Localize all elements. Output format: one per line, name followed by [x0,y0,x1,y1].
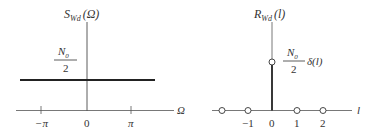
right-title-sub: Wd [261,14,273,23]
sample-circle-minus1 [245,108,251,114]
impulse-head-circle [269,59,275,65]
tick-label-r-zero: 0 [269,117,275,129]
tick-label-zero: 0 [84,117,90,129]
right-title-arg: (l) [274,7,285,21]
svg-text:SWd(Ω): SWd(Ω) [64,7,99,23]
diagram-canvas: SWd(Ω) N0 2 Ω −π 0 π RWd(l) [0,0,378,134]
right-impulse-numerator-sub: 0 [294,53,298,61]
right-impulse-denominator: 2 [291,63,297,75]
tick-label-minus1: −1 [242,117,254,129]
tick-label-1: 1 [294,117,300,129]
left-title-arg: (Ω) [83,7,100,21]
right-x-axis-label: l [357,104,360,116]
tick-label-pi: π [128,117,134,129]
left-title-sub: Wd [70,14,82,23]
svg-text:N0: N0 [286,46,298,61]
left-psd-plot: SWd(Ω) N0 2 Ω −π 0 π [16,7,185,129]
sample-circle-1 [294,108,300,114]
tick-label-2: 2 [320,117,326,129]
right-impulse-suffix: δ(l) [307,55,323,68]
left-x-axis-label: Ω [177,104,185,116]
svg-text:N0: N0 [57,45,69,60]
sample-circle-minus2 [219,108,225,114]
right-autocorr-plot: RWd(l) N0 2 δ(l) l −1 0 1 2 [212,7,360,129]
tick-label-minus-pi: −π [35,117,48,129]
left-level-numerator-sub: 0 [65,52,69,60]
left-level-denominator: 2 [63,62,69,74]
svg-text:RWd(l): RWd(l) [253,7,285,23]
sample-circle-2 [320,108,326,114]
